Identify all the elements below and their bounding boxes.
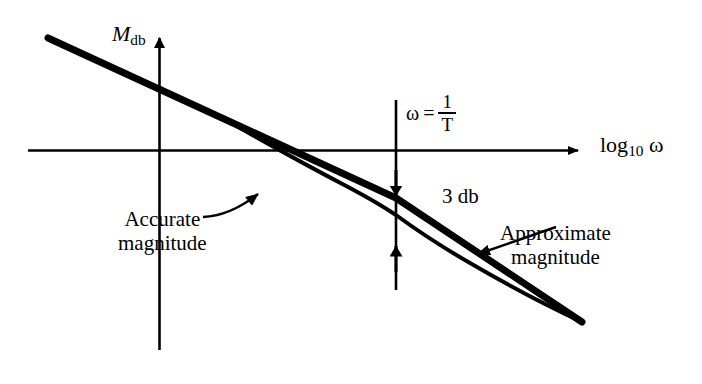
three-db-label: 3 db [442,185,479,209]
break-frequency-equals: = [423,102,434,124]
figure-canvas [0,0,702,384]
axis-group [28,38,578,350]
break-frequency-fraction: 1 T [438,92,456,134]
accurate-magnitude-label-line1: Accurate [118,208,207,232]
break-frequency-label: ω = 1 T [406,92,456,134]
y-axis-label-subscript: db [130,31,145,48]
accurate-magnitude-curve [48,38,582,322]
accurate-magnitude-label: Accurate magnitude [118,208,207,255]
fraction-denominator: T [438,115,456,134]
approximate-magnitude-label-line2: magnitude [500,246,611,270]
bode-magnitude-figure: Mdb log10 ω ω = 1 T 3 db Accurate magnit… [0,0,702,384]
x-axis-label-main: log [600,132,628,157]
break-frequency-omega: ω [406,102,419,124]
fraction-numerator: 1 [440,92,456,111]
x-axis-label: log10 ω [600,133,664,160]
y-axis-label-main: M [112,21,130,46]
x-axis-label-omega: ω [649,132,663,157]
x-axis-label-subscript: 10 [628,142,643,159]
approximate-magnitude-label: Approximate magnitude [500,222,611,269]
accurate-magnitude-leader [203,194,258,217]
accurate-magnitude-label-line2: magnitude [118,232,207,256]
approximate-magnitude-label-line1: Approximate [500,222,611,246]
y-axis-label: Mdb [112,22,146,49]
